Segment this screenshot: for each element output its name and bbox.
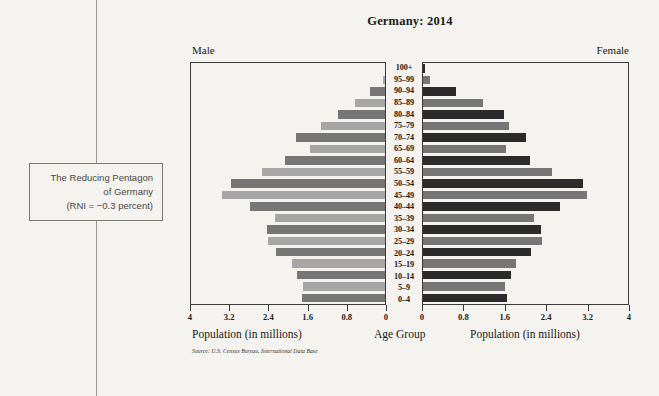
male-bars-panel xyxy=(190,62,386,305)
bar-row xyxy=(191,269,385,280)
female-bar-30–34 xyxy=(423,225,541,233)
source-note: Source: U.S. Census Bureau, Internationa… xyxy=(192,348,318,354)
age-group-label: 35–39 xyxy=(386,213,422,225)
age-group-label: 85–89 xyxy=(386,97,422,109)
female-bar-75–79 xyxy=(423,122,509,130)
axis-tick-label: 0.8 xyxy=(458,312,469,322)
age-group-label: 100+ xyxy=(386,62,422,74)
bar-row xyxy=(191,224,385,235)
axis-tick xyxy=(505,305,506,311)
axis-tick xyxy=(588,305,589,311)
female-bar-65–69 xyxy=(423,145,506,153)
female-bar-35–39 xyxy=(423,214,534,222)
female-bar-20–24 xyxy=(423,248,531,256)
axis-tick-label: 3.2 xyxy=(582,312,593,322)
caption-line-3: (RNI = −0.3 percent) xyxy=(34,199,153,213)
female-panel-label: Female xyxy=(597,44,629,56)
bar-row xyxy=(191,120,385,131)
age-group-label: 25–29 xyxy=(386,236,422,248)
axis-tick xyxy=(190,305,191,311)
axis-tick xyxy=(229,305,230,311)
axis-tick xyxy=(347,305,348,311)
chart-title: Germany: 2014 xyxy=(190,14,630,29)
bar-row xyxy=(423,201,628,212)
bar-row xyxy=(191,292,385,303)
age-group-label: 15–19 xyxy=(386,259,422,271)
age-group-label: 30–34 xyxy=(386,224,422,236)
bar-row xyxy=(191,258,385,269)
male-bar-15–19 xyxy=(292,259,385,267)
female-bar-15–19 xyxy=(423,259,516,267)
bar-row xyxy=(423,63,628,74)
bar-row xyxy=(423,120,628,131)
male-bar-30–34 xyxy=(267,225,385,233)
axis-tick-label: 4 xyxy=(627,312,631,322)
age-group-label: 75–79 xyxy=(386,120,422,132)
male-bar-60–64 xyxy=(285,156,385,164)
male-bar-40–44 xyxy=(250,202,385,210)
center-axis-title: Age Group xyxy=(374,328,425,340)
bar-row xyxy=(423,235,628,246)
bar-row xyxy=(423,109,628,120)
bar-row xyxy=(191,155,385,166)
male-bar-0–4 xyxy=(302,294,385,302)
bar-row xyxy=(423,281,628,292)
bar-row xyxy=(423,97,628,108)
male-bar-20–24 xyxy=(276,248,385,256)
axis-tick xyxy=(308,305,309,311)
bar-row xyxy=(423,74,628,85)
bar-row xyxy=(423,292,628,303)
axis-tick xyxy=(546,305,547,311)
female-bar-55–59 xyxy=(423,168,552,176)
bar-row xyxy=(423,86,628,97)
male-panel-label: Male xyxy=(192,44,215,56)
male-bar-10–14 xyxy=(297,271,385,279)
female-bars-panel xyxy=(422,62,629,305)
axis-tick-label: 4 xyxy=(188,312,192,322)
age-group-label-column: 100+95–9990–9485–8980–8475–7970–7465–696… xyxy=(386,62,422,305)
bar-row xyxy=(191,109,385,120)
bar-row xyxy=(191,166,385,177)
bar-row xyxy=(423,155,628,166)
age-group-label: 80–84 xyxy=(386,108,422,120)
female-axis-title: Population (in millions) xyxy=(470,328,580,340)
female-bar-25–29 xyxy=(423,237,542,245)
age-group-label: 40–44 xyxy=(386,201,422,213)
male-bar-85–89 xyxy=(355,99,385,107)
bar-row xyxy=(191,86,385,97)
bar-row xyxy=(423,269,628,280)
age-group-label: 20–24 xyxy=(386,247,422,259)
female-bar-40–44 xyxy=(423,202,560,210)
male-bar-50–54 xyxy=(231,179,385,187)
bar-row xyxy=(191,189,385,200)
female-bar-45–49 xyxy=(423,191,587,199)
bar-row xyxy=(423,166,628,177)
age-group-label: 0–4 xyxy=(386,294,422,306)
female-bar-85–89 xyxy=(423,99,483,107)
bar-row xyxy=(191,281,385,292)
axis-tick xyxy=(463,305,464,311)
male-bar-70–74 xyxy=(296,133,385,141)
age-group-label: 50–54 xyxy=(386,178,422,190)
female-bar-0–4 xyxy=(423,294,507,302)
axis-tick xyxy=(422,305,423,311)
bar-row xyxy=(423,132,628,143)
axis-tick-label: 2.4 xyxy=(263,312,274,322)
age-group-label: 55–59 xyxy=(386,166,422,178)
axis-tick-label: 1.6 xyxy=(302,312,313,322)
caption-box: The Reducing Pentagon of Germany (RNI = … xyxy=(29,163,163,221)
axis-tick-label: 0 xyxy=(384,312,388,322)
female-bar-5–9 xyxy=(423,282,505,290)
bar-row xyxy=(191,247,385,258)
male-bar-55–59 xyxy=(262,168,385,176)
female-bar-50–54 xyxy=(423,179,583,187)
axis-tick xyxy=(268,305,269,311)
male-bar-35–39 xyxy=(275,214,385,222)
bar-row xyxy=(423,212,628,223)
bar-row xyxy=(191,201,385,212)
axis-tick-label: 0 xyxy=(420,312,424,322)
caption-line-2: of Germany xyxy=(34,185,153,199)
bar-row xyxy=(191,143,385,154)
age-group-label: 70–74 xyxy=(386,131,422,143)
axis-tick-label: 0.8 xyxy=(341,312,352,322)
